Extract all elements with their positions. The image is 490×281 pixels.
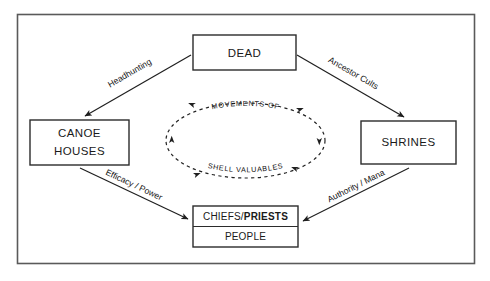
node-canoe-houses-label-line1: CANOE (58, 127, 101, 139)
node-chiefs-label-regular: CHIEFS/ (203, 210, 244, 221)
node-dead[interactable]: DEAD (193, 35, 296, 70)
edge-label-authority-mana-group: Authority / Mana (326, 167, 387, 204)
edge-label-efficacy-power: Efficacy / Power (104, 167, 164, 202)
edge-label-ancestor-cults: Ancestor Cults (327, 55, 380, 92)
edge-label-ancestor-cults-group: Ancestor Cults (327, 55, 380, 92)
node-people-label: PEOPLE (225, 231, 266, 242)
node-chiefs-label: CHIEFS/PRIESTS (203, 210, 288, 221)
cycle-label-shell-valuables: SHELL VALUABLES (207, 161, 284, 174)
diagram-canvas: Headhunting Ancestor Cults Efficacy / Po… (0, 0, 490, 281)
node-chiefs-people[interactable]: CHIEFS/PRIESTS PEOPLE (193, 206, 298, 247)
cycle-arrowhead-right (317, 138, 322, 145)
cycle-label-movements-of: MOVEMENTS OF (211, 99, 281, 111)
edge-label-authority-mana: Authority / Mana (326, 167, 387, 204)
node-priests-label-bold: PRIESTS (244, 210, 288, 221)
diagram-page: Headhunting Ancestor Cults Efficacy / Po… (0, 0, 490, 281)
edge-label-headhunting-group: Headhunting (106, 56, 153, 89)
cycle-arrowhead-left (169, 136, 174, 143)
node-canoe-houses[interactable]: CANOE HOUSES (30, 120, 129, 165)
node-shrines[interactable]: SHRINES (361, 121, 456, 164)
edge-canoe-houses-to-chiefs (80, 168, 188, 219)
node-shrines-label: SHRINES (382, 136, 436, 148)
node-dead-label: DEAD (228, 47, 262, 59)
edge-label-headhunting: Headhunting (106, 56, 153, 89)
cycle-arrowhead-top-left (187, 100, 196, 108)
edge-label-efficacy-power-group: Efficacy / Power (104, 167, 164, 202)
edge-shrines-to-chiefs (303, 168, 409, 221)
node-canoe-houses-label-line2: HOUSES (54, 145, 105, 157)
cycle-ellipse-group: MOVEMENTS OF SHELL VALUABLES (166, 99, 325, 178)
